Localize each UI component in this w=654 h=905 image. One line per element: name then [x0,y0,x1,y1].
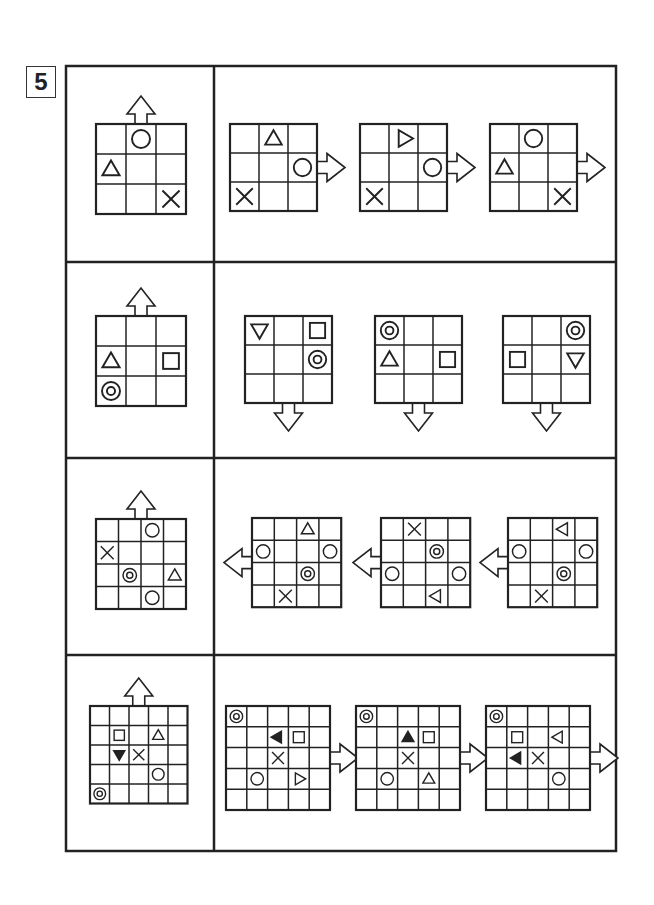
arrow-down-icon [405,403,433,431]
arrow-left-icon [224,549,252,577]
option-grid-2 [353,518,470,607]
option-grid-3 [480,518,597,607]
option-grid-1 [230,124,345,211]
arrow-left-icon [353,549,381,577]
reference-grid [96,288,186,406]
puzzle-row-4 [90,678,618,810]
arrow-right-icon [590,744,618,772]
arrow-up-icon [127,491,155,519]
reference-grid [90,678,188,804]
grid-border [503,316,590,403]
reference-grid [96,96,186,214]
arrow-left-icon [480,549,508,577]
puzzle-content [90,96,618,810]
arrow-down-icon [275,403,303,431]
arrow-up-icon [127,96,155,124]
option-grid-1 [226,706,358,810]
option-grid-2 [356,706,488,810]
arrow-up-icon [127,288,155,316]
grid-border [375,316,462,403]
arrow-right-icon [577,154,605,182]
arrow-right-icon [460,744,488,772]
arrow-up-icon [125,678,153,706]
option-grid-3 [503,316,590,431]
arrow-down-icon [533,403,561,431]
grid-border [245,316,332,403]
option-grid-1 [245,316,332,431]
grid-border [96,316,186,406]
arrow-right-icon [330,744,358,772]
puzzle-row-2 [96,288,590,431]
option-grid-3 [490,124,605,211]
arrow-right-icon [317,154,345,182]
option-grid-2 [375,316,462,431]
puzzle-row-3 [96,491,597,609]
arrow-right-icon [447,154,475,182]
puzzle-sheet [0,0,654,905]
option-grid-1 [224,518,341,607]
option-grid-3 [486,706,618,810]
reference-grid [96,491,186,609]
option-grid-2 [360,124,475,211]
puzzle-row-1 [96,96,605,214]
